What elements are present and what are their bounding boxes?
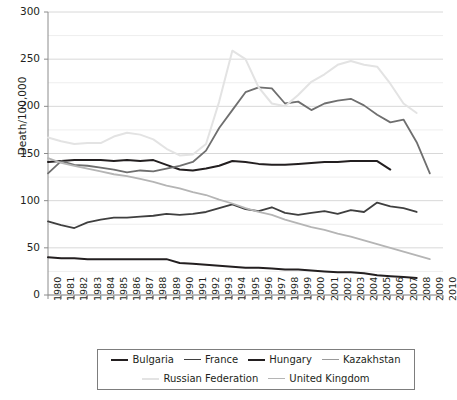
- legend-swatch-icon: [142, 378, 159, 380]
- legend-label: Bulgaria: [132, 354, 173, 365]
- legend-swatch-icon: [184, 359, 201, 360]
- legend-swatch-icon: [322, 359, 339, 360]
- axis-lines: [44, 12, 443, 299]
- legend-swatch-icon: [268, 378, 285, 379]
- legend-item[interactable]: France: [184, 354, 238, 365]
- legend-label: France: [205, 354, 238, 365]
- legend-label: Kazakhstan: [343, 354, 401, 365]
- gridlines: [48, 12, 443, 295]
- legend-item[interactable]: Russian Federation: [142, 373, 258, 384]
- legend-label: United Kingdom: [289, 373, 369, 384]
- series-line: [48, 257, 417, 278]
- series-line: [48, 51, 417, 156]
- legend-item[interactable]: Bulgaria: [111, 354, 173, 365]
- legend-label: Hungary: [269, 354, 312, 365]
- legend-label: Russian Federation: [163, 373, 258, 384]
- data-series-layer: [48, 51, 430, 278]
- legend: BulgariaFranceHungaryKazakhstan Russian …: [97, 349, 415, 390]
- legend-row-2: Russian FederationUnited Kingdom: [98, 369, 414, 388]
- line-chart: Death/100,000 050100150200250300 1980198…: [0, 0, 457, 400]
- legend-swatch-icon: [248, 359, 265, 361]
- series-line: [48, 158, 430, 259]
- legend-item[interactable]: United Kingdom: [268, 373, 369, 384]
- series-line: [48, 160, 390, 170]
- plot-area: [0, 0, 457, 400]
- legend-item[interactable]: Hungary: [248, 354, 312, 365]
- legend-item[interactable]: Kazakhstan: [322, 354, 401, 365]
- legend-swatch-icon: [111, 359, 128, 361]
- legend-row-1: BulgariaFranceHungaryKazakhstan: [98, 350, 414, 369]
